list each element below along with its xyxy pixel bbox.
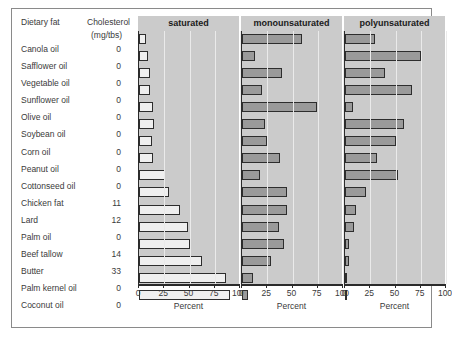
x-axis-label-polyunsaturated: Percent xyxy=(344,301,445,311)
x-axis-label-monounsaturated: Percent xyxy=(241,301,342,311)
table-row: Canola oil0 xyxy=(21,42,133,59)
bar xyxy=(345,51,421,61)
dietary-fat-name: Chicken fat xyxy=(21,196,64,210)
bar xyxy=(139,34,146,44)
chart-figure: Dietary fat Cholesterol (mg/tbs) Canola … xyxy=(11,8,432,328)
x-axis-tick-label: 75 xyxy=(312,288,321,298)
x-axis-tick-label: 50 xyxy=(287,288,296,298)
dietary-fat-name: Sunflower oil xyxy=(21,93,70,107)
x-axis-tick-label: 0 xyxy=(136,288,141,298)
gridline xyxy=(318,31,319,284)
dietary-fat-name: Palm oil xyxy=(21,230,51,244)
dietary-fat-name: Olive oil xyxy=(21,110,51,124)
cholesterol-value: 0 xyxy=(95,76,121,90)
bar xyxy=(242,205,287,215)
gridline xyxy=(396,31,397,284)
bar xyxy=(345,273,347,283)
dietary-fat-name: Beef tallow xyxy=(21,247,63,261)
table-body: Canola oil0Safflower oil0Vegetable oil0S… xyxy=(21,42,133,316)
cholesterol-value: 11 xyxy=(95,196,121,210)
dietary-fat-name: Vegetable oil xyxy=(21,76,70,90)
panel-saturated: saturated Percent 0255075100 xyxy=(138,16,239,299)
table-row: Vegetable oil0 xyxy=(21,76,133,93)
bar xyxy=(345,68,385,78)
x-axis-label-saturated: Percent xyxy=(138,301,239,311)
dietary-fat-name: Peanut oil xyxy=(21,162,59,176)
gridline xyxy=(421,31,422,284)
x-axis-tick-label: 25 xyxy=(159,288,168,298)
x-axis-tick-label: 0 xyxy=(342,288,347,298)
gridline xyxy=(164,31,165,284)
table-row: Sunflower oil0 xyxy=(21,93,133,110)
column-header-dietary-fat: Dietary fat xyxy=(21,16,60,29)
cholesterol-value: 33 xyxy=(95,264,121,278)
bar xyxy=(139,153,153,163)
bar xyxy=(139,51,148,61)
x-axis-tick-label: 25 xyxy=(365,288,374,298)
bar xyxy=(242,119,265,129)
table-row: Lard12 xyxy=(21,213,133,230)
bar xyxy=(242,239,284,249)
bar xyxy=(242,170,260,180)
bar xyxy=(139,68,150,78)
dietary-fat-name: Safflower oil xyxy=(21,59,67,73)
bar xyxy=(242,51,255,61)
cholesterol-value: 0 xyxy=(95,179,121,193)
plot-area-polyunsaturated xyxy=(344,31,445,284)
column-header-cholesterol: Cholesterol xyxy=(87,16,130,29)
bar xyxy=(242,187,287,197)
bar xyxy=(242,222,279,232)
panel-title-polyunsaturated: polyunsaturated xyxy=(344,16,445,31)
dietary-fat-name: Palm kernel oil xyxy=(21,281,77,295)
table-row: Beef tallow14 xyxy=(21,247,133,264)
cholesterol-value: 0 xyxy=(95,93,121,107)
bar xyxy=(139,102,153,112)
bar xyxy=(345,170,398,180)
gridline xyxy=(370,31,371,284)
table-row: Palm oil0 xyxy=(21,230,133,247)
gridline xyxy=(215,31,216,284)
table-row: Peanut oil0 xyxy=(21,162,133,179)
cholesterol-value: 0 xyxy=(95,281,121,295)
x-axis-tick-label: 75 xyxy=(209,288,218,298)
bar xyxy=(242,85,262,95)
bar xyxy=(242,102,317,112)
table-row: Palm kernel oil0 xyxy=(21,281,133,298)
bar xyxy=(345,102,353,112)
bar xyxy=(139,273,226,283)
cholesterol-value: 0 xyxy=(95,110,121,124)
cholesterol-value: 0 xyxy=(95,298,121,312)
panel-monounsaturated: monounsaturated Percent 0255075100 xyxy=(241,16,342,299)
column-header-cholesterol-units: (mg/tbs) xyxy=(91,29,122,42)
x-axis-tick-label: 75 xyxy=(415,288,424,298)
bar xyxy=(242,68,282,78)
table-row: Chicken fat11 xyxy=(21,196,133,213)
bar xyxy=(139,205,180,215)
cholesterol-value: 0 xyxy=(95,59,121,73)
gridline xyxy=(446,31,447,284)
x-axis-tick-label: 0 xyxy=(239,288,244,298)
dietary-fat-name: Coconut oil xyxy=(21,298,64,312)
table-header-row: Dietary fat Cholesterol xyxy=(21,16,133,29)
dietary-fat-table: Dietary fat Cholesterol (mg/tbs) Canola … xyxy=(21,16,133,316)
table-row: Corn oil0 xyxy=(21,145,133,162)
table-row: Safflower oil0 xyxy=(21,59,133,76)
bar xyxy=(345,205,356,215)
x-axis-tick-label: 50 xyxy=(184,288,193,298)
dietary-fat-name: Canola oil xyxy=(21,42,59,56)
x-axis-tick-label: 100 xyxy=(438,288,452,298)
plot-area-monounsaturated xyxy=(241,31,342,284)
bar xyxy=(345,222,354,232)
table-row: Coconut oil0 xyxy=(21,298,133,315)
bar xyxy=(139,119,154,129)
bar xyxy=(345,153,377,163)
bar xyxy=(139,136,152,146)
bar xyxy=(139,256,202,266)
bar xyxy=(242,273,253,283)
dietary-fat-name: Cottonseed oil xyxy=(21,179,75,193)
table-header-units-row: (mg/tbs) xyxy=(21,29,133,42)
table-row: Cottonseed oil0 xyxy=(21,179,133,196)
panel-polyunsaturated: polyunsaturated Percent 0255075100 xyxy=(344,16,445,299)
dietary-fat-name: Lard xyxy=(21,213,38,227)
cholesterol-value: 14 xyxy=(95,247,121,261)
